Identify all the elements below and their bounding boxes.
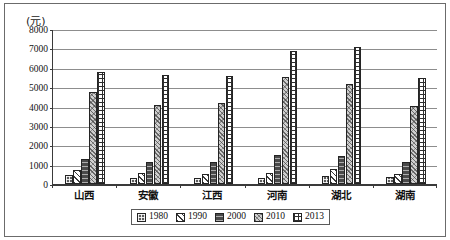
bar bbox=[154, 105, 161, 184]
bar bbox=[81, 159, 88, 184]
legend-label: 2013 bbox=[305, 212, 324, 222]
legend-swatch-icon bbox=[254, 213, 263, 222]
legend-swatch-icon bbox=[293, 213, 302, 222]
category-label-6: 湖南 bbox=[373, 187, 437, 202]
bar-group bbox=[310, 30, 374, 184]
bar bbox=[138, 173, 145, 184]
legend-swatch-icon bbox=[176, 213, 185, 222]
bar bbox=[410, 106, 417, 184]
bar bbox=[89, 92, 96, 184]
bar bbox=[97, 72, 104, 184]
bar bbox=[210, 162, 217, 184]
legend-entry-2000: 2000 bbox=[215, 212, 246, 222]
legend-label: 2010 bbox=[266, 212, 285, 222]
legend-swatch-icon bbox=[215, 213, 224, 222]
bar-group bbox=[374, 30, 438, 184]
bar bbox=[73, 170, 80, 184]
bar bbox=[258, 178, 265, 184]
legend-entry-1990: 1990 bbox=[176, 212, 207, 222]
y-axis-tick-label: 2000 bbox=[29, 141, 48, 151]
bar bbox=[290, 51, 297, 184]
bars-layer bbox=[53, 30, 437, 184]
bar bbox=[274, 155, 281, 184]
legend-entry-2010: 2010 bbox=[254, 212, 285, 222]
legend-entry-1980: 1980 bbox=[137, 212, 168, 222]
plot-area bbox=[52, 30, 437, 185]
legend-label: 2000 bbox=[227, 212, 246, 222]
bar bbox=[338, 156, 345, 184]
bar bbox=[282, 77, 289, 184]
category-label-5: 湖北 bbox=[309, 187, 373, 202]
bar bbox=[226, 76, 233, 185]
category-label-1: 山西 bbox=[52, 187, 116, 202]
chart-legend: 19801990200020102013 bbox=[131, 209, 330, 225]
bar bbox=[346, 84, 353, 184]
bar bbox=[202, 174, 209, 184]
bar bbox=[322, 176, 329, 184]
y-axis-tick-label: 1000 bbox=[29, 161, 48, 171]
y-axis-tick-label: 0 bbox=[43, 180, 48, 190]
y-axis-tick-label: 3000 bbox=[29, 122, 48, 132]
bar bbox=[386, 177, 393, 184]
bar-chart-figure: (元) 010002000300040005000600070008000 山西… bbox=[0, 0, 450, 240]
bar bbox=[194, 178, 201, 184]
bar bbox=[130, 178, 137, 184]
y-axis-tick-label: 8000 bbox=[29, 25, 48, 35]
legend-label: 1990 bbox=[188, 212, 207, 222]
bar bbox=[354, 47, 361, 184]
bar-group bbox=[181, 30, 245, 184]
x-axis-category-labels: 山西安徽江西河南湖北湖南 bbox=[52, 187, 437, 203]
bar bbox=[266, 173, 273, 184]
bar bbox=[65, 175, 72, 184]
legend-label: 1980 bbox=[149, 212, 168, 222]
bar-group bbox=[53, 30, 117, 184]
y-axis-tick-label: 4000 bbox=[29, 103, 48, 113]
bar bbox=[402, 162, 409, 184]
y-axis-tick-label: 6000 bbox=[29, 64, 48, 74]
bar bbox=[218, 103, 225, 184]
bar bbox=[330, 169, 337, 184]
category-label-4: 河南 bbox=[245, 187, 309, 202]
category-label-3: 江西 bbox=[180, 187, 244, 202]
legend-swatch-icon bbox=[137, 213, 146, 222]
y-axis-tick-label: 7000 bbox=[29, 44, 48, 54]
bar-group bbox=[117, 30, 181, 184]
bar bbox=[418, 78, 425, 184]
category-label-2: 安徽 bbox=[116, 187, 180, 202]
bar bbox=[162, 75, 169, 184]
bar-group bbox=[246, 30, 310, 184]
y-axis-tick-labels: 010002000300040005000600070008000 bbox=[8, 30, 48, 185]
legend-entry-2013: 2013 bbox=[293, 212, 324, 222]
bar bbox=[146, 162, 153, 184]
y-axis-tick-label: 5000 bbox=[29, 83, 48, 93]
bar bbox=[394, 174, 401, 184]
